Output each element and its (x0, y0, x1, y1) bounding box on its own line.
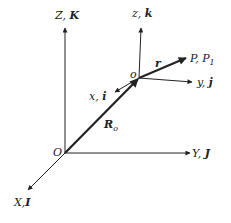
vector-r (139, 58, 186, 78)
label-origin-O: O (53, 146, 62, 159)
frames-diagram: Z, K Y, J X,I O z, k y, j x, i o Ro r P,… (0, 0, 231, 223)
label-point-P: P, P1 (189, 52, 215, 67)
label-global-z: Z, K (54, 9, 79, 22)
local-y-axis (139, 78, 192, 82)
label-global-y: Y, J (192, 147, 211, 160)
label-vector-R-o: Ro (103, 118, 118, 133)
label-origin-o: o (130, 68, 137, 81)
label-local-z: z, k (131, 7, 153, 20)
label-global-x: X,I (13, 196, 31, 209)
label-local-y: y, j (196, 76, 213, 89)
local-z-axis (139, 28, 141, 78)
label-local-x: x, i (89, 90, 106, 103)
